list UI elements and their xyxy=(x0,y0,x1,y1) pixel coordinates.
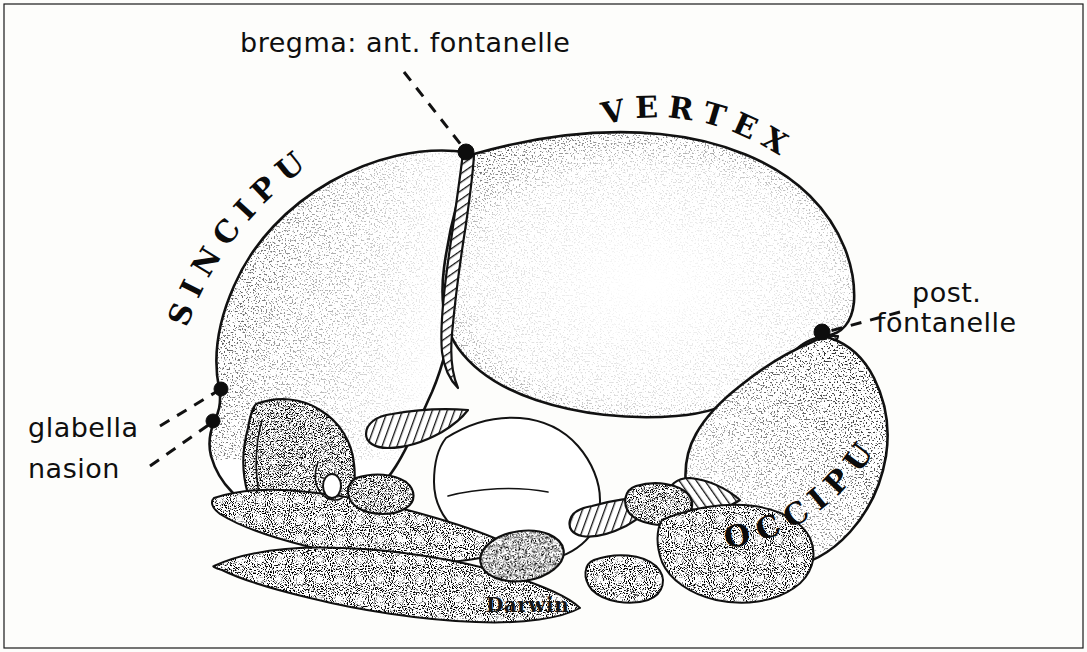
bregma-point xyxy=(458,144,474,160)
label-post-fontanelle-line1: post. xyxy=(912,277,981,308)
posterior-fontanelle-point xyxy=(814,324,830,340)
anatomical-illustration: bregma: ant. fontanelle post. fontanelle… xyxy=(0,0,1087,652)
label-post-fontanelle-line2: fontanelle xyxy=(876,307,1017,338)
nasion-point xyxy=(206,414,220,428)
label-nasion: nasion xyxy=(28,453,120,484)
artist-signature: Darwin xyxy=(486,593,569,617)
glabella-point xyxy=(214,382,228,396)
label-glabella: glabella xyxy=(28,412,138,443)
label-bregma: bregma: ant. fontanelle xyxy=(240,27,570,58)
